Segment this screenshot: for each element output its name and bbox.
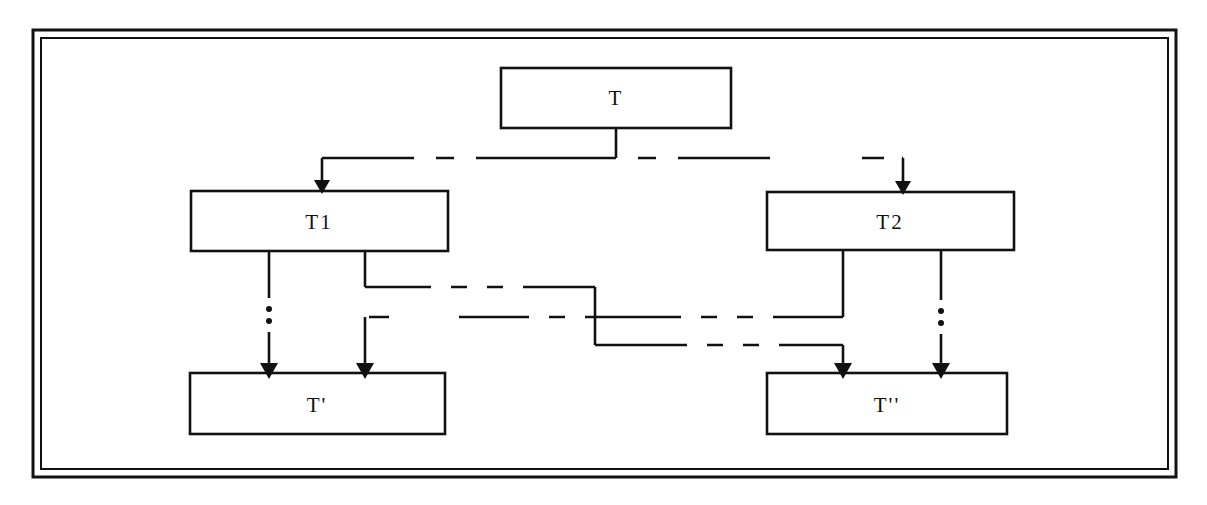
ellipsis-dot: [266, 318, 272, 324]
node-label-T2: T2: [876, 210, 903, 234]
node-box-T2[interactable]: T2: [767, 192, 1014, 250]
diagram-canvas: T T1 T2 T' T'': [0, 0, 1207, 505]
edge-T1-to-T-prime: [260, 251, 278, 379]
edge-T2-to-T-prime: [356, 250, 843, 379]
edge-T-to-T2: [895, 158, 911, 195]
node-label-T1: T1: [305, 210, 332, 234]
node-box-T-double-prime[interactable]: T'': [767, 373, 1007, 434]
node-label-T-prime: T': [307, 393, 328, 417]
edge-T-to-T1: [314, 158, 330, 194]
edge-T1-to-T-double-prime: [365, 251, 852, 379]
node-label-T-double-prime: T'': [874, 393, 900, 417]
type-hierarchy-svg: T T1 T2 T' T'': [0, 0, 1207, 505]
ellipsis-dot: [938, 308, 944, 314]
node-box-T-prime[interactable]: T': [190, 373, 445, 434]
ellipsis-dot: [938, 320, 944, 326]
edge-T2-to-T-double-prime: [932, 250, 950, 379]
node-box-T1[interactable]: T1: [191, 191, 448, 251]
ellipsis-dot: [266, 306, 272, 312]
node-box-T[interactable]: T: [501, 68, 731, 128]
node-label-T: T: [609, 86, 624, 110]
